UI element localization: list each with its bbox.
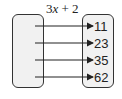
range-value: 23 bbox=[94, 37, 108, 50]
range-value: 11 bbox=[94, 20, 108, 33]
range-value: 35 bbox=[94, 54, 108, 67]
mapping-diagram: 3x + 2 11 23 35 62 bbox=[0, 0, 122, 99]
range-value: 62 bbox=[94, 71, 108, 84]
